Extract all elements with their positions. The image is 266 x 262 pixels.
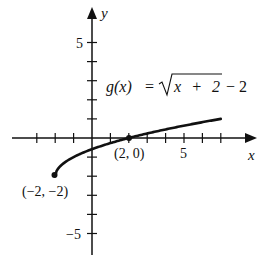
x-axis-arrow-icon	[245, 133, 257, 143]
y-axis-label: y	[99, 5, 108, 21]
x-tick-label-5: 5	[180, 146, 187, 161]
function-eq: =	[145, 78, 154, 95]
function-tail: − 2	[226, 78, 247, 95]
annotation-start-point: (−2, −2)	[22, 184, 68, 200]
function-label: g(x) = x + 2 − 2	[106, 74, 247, 96]
y-tick-label-5: 5	[76, 36, 83, 51]
y-axis-arrow-icon	[87, 7, 97, 19]
start-point-dot	[52, 172, 58, 178]
y-tick-label-neg5: −5	[66, 227, 81, 242]
x-intercept-dot	[126, 135, 132, 141]
annotation-x-intercept: (2, 0)	[114, 146, 145, 162]
function-graph: y x 5 −5 5 (2, 0) (−2, −2) g(x) = x + 2 …	[0, 0, 266, 262]
function-lhs: g(x)	[106, 78, 132, 96]
x-axis-label: x	[247, 147, 255, 163]
function-radicand: x + 2	[173, 78, 220, 95]
